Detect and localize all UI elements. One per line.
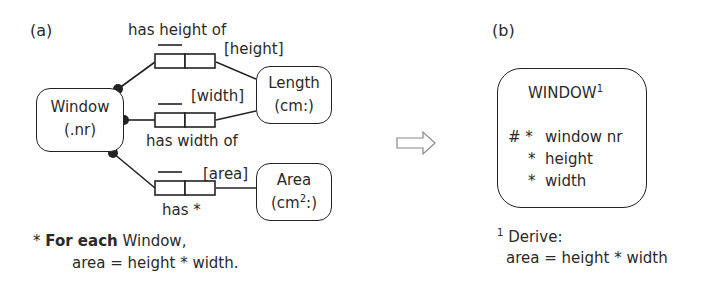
entity-length-unit: (cm:)	[257, 99, 331, 114]
entity-length[interactable]: Length (cm:)	[256, 66, 332, 124]
entity-area[interactable]: Area (cm2:)	[256, 163, 332, 221]
attribute-window-nr: window nr	[545, 130, 622, 145]
attribute-height: height	[545, 152, 593, 167]
footnote-b-line1: 1 Derive:	[497, 230, 562, 245]
panel-a-label: (a)	[30, 23, 52, 39]
entity-window-name: Window	[37, 100, 123, 115]
footnote-b-line2: area = height * width	[506, 251, 668, 266]
entity-window-relational[interactable]: WINDOW1 # * window nr * height * width	[497, 68, 647, 208]
entity-window[interactable]: Window (.nr)	[36, 88, 124, 152]
entity-window-ref: (.nr)	[37, 123, 123, 138]
footnote-a-line1: * For each Window,	[33, 234, 186, 249]
panel-b-label: (b)	[492, 23, 515, 39]
role-name-height: [height]	[224, 42, 284, 57]
entity-area-unit: (cm2:)	[257, 196, 331, 211]
entity-area-name: Area	[257, 173, 331, 188]
footnote-a-line2: area = height * width.	[72, 256, 239, 271]
fact-reading-width: has width of	[146, 134, 238, 149]
attribute-prefix: *	[528, 152, 536, 167]
attribute-prefix: *	[528, 174, 536, 189]
attribute-prefix: # *	[508, 130, 533, 145]
entity-length-name: Length	[257, 76, 331, 91]
right-arrow-icon	[397, 132, 435, 154]
attribute-width: width	[545, 174, 586, 189]
role-name-area: [area]	[203, 167, 248, 182]
fact-reading-area: has *	[162, 203, 201, 218]
entity-title: WINDOW1	[528, 86, 603, 101]
role-name-width: [width]	[191, 89, 244, 104]
fact-reading-height: has height of	[128, 23, 226, 38]
